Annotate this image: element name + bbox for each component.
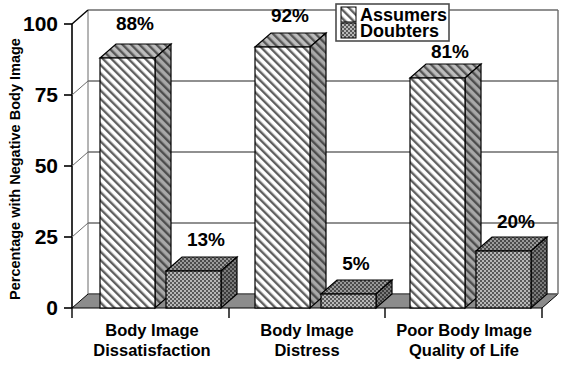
y-axis-title: Percentage with Negative Body Image [7, 38, 23, 300]
bar-assumers-1[interactable] [100, 44, 171, 308]
cat-label-3-line2: Quality of Life [409, 341, 519, 359]
y-tick-50: 50 [35, 154, 58, 177]
x-axis-ticks [72, 308, 542, 318]
y-axis [64, 10, 88, 308]
chart-canvas: 100 75 50 25 0 Percentage with Negative … [0, 0, 567, 377]
cat-label-2-line2: Distress [274, 341, 339, 359]
data-label-assumers-3: 81% [431, 41, 469, 62]
bar-doubters-3[interactable] [476, 237, 547, 308]
y-tick-0: 0 [46, 296, 58, 319]
bar-doubters-1[interactable] [166, 257, 237, 308]
y-tick-75: 75 [35, 83, 59, 106]
cat-label-1-line2: Dissatisfaction [93, 341, 210, 359]
data-label-assumers-1: 88% [116, 13, 154, 34]
data-label-assumers-2: 92% [271, 5, 309, 26]
svg-text:Percentage with Negative Body: Percentage with Negative Body Image [7, 38, 23, 300]
bar-assumers-3[interactable] [410, 64, 481, 308]
y-tick-100: 100 [23, 12, 58, 35]
data-label-doubters-3: 20% [497, 211, 535, 232]
legend-label-doubters: Doubters [360, 21, 439, 41]
data-label-doubters-2: 5% [342, 253, 370, 274]
cat-label-2-line1: Body Image [260, 321, 354, 339]
cat-label-3-line1: Poor Body Image [396, 321, 532, 339]
x-axis-labels: Body Image Dissatisfaction Body Image Di… [93, 321, 532, 359]
legend-item-doubters[interactable]: Doubters [341, 21, 439, 41]
legend[interactable]: Assumers Doubters [336, 4, 449, 41]
bar-chart: 100 75 50 25 0 Percentage with Negative … [0, 0, 567, 377]
bar-assumers-2[interactable] [255, 33, 326, 308]
y-tick-labels: 100 75 50 25 0 [23, 12, 58, 319]
cat-label-1-line1: Body Image [105, 321, 199, 339]
data-label-doubters-1: 13% [187, 229, 225, 250]
bar-doubters-2[interactable] [321, 280, 392, 308]
y-tick-25: 25 [35, 225, 59, 248]
